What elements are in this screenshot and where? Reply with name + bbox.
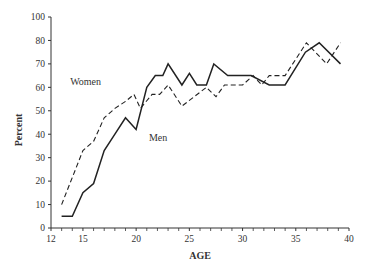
y-tick-label: 100: [31, 12, 46, 22]
x-tick-label: 35: [291, 234, 301, 244]
series-line-men: [62, 43, 341, 217]
x-axis-title: AGE: [189, 250, 211, 261]
x-tick-label: 20: [131, 234, 141, 244]
x-tick-label: 30: [238, 234, 248, 244]
series-line-women: [62, 43, 341, 205]
y-tick-label: 30: [36, 153, 46, 163]
line-chart: 0102030405060708010012152025303540 Men W…: [0, 0, 367, 268]
x-tick-label: 40: [344, 234, 354, 244]
y-tick-label: 20: [36, 176, 46, 186]
y-tick-label: 0: [40, 223, 45, 233]
series-label-men: Men: [149, 132, 167, 143]
chart-canvas: 0102030405060708010012152025303540 Men W…: [0, 0, 367, 268]
y-tick-label: 80: [36, 36, 46, 46]
x-tick-label: 15: [78, 234, 88, 244]
y-tick-label: 60: [36, 83, 46, 93]
y-tick-label: 40: [36, 130, 46, 140]
x-tick-label: 25: [185, 234, 195, 244]
y-tick-label: 10: [36, 200, 46, 210]
x-tick-label: 12: [46, 234, 56, 244]
y-tick-label: 50: [36, 106, 46, 116]
series-label-women: Women: [70, 76, 101, 87]
y-tick-label: 70: [36, 59, 46, 69]
series-lines: [62, 43, 341, 217]
y-axis-title: Percent: [13, 113, 24, 146]
axes: 0102030405060708010012152025303540: [31, 12, 354, 244]
